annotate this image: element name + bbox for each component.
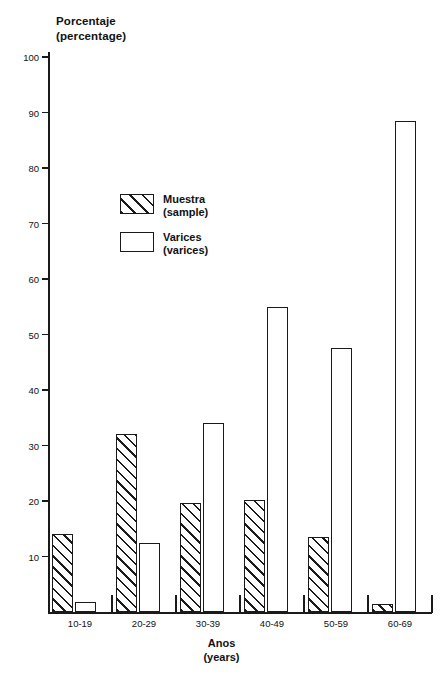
x-axis-tick	[431, 595, 433, 613]
y-axis-tick-label: 40	[13, 386, 39, 396]
y-axis-tick	[42, 278, 49, 279]
y-axis-tick-label: 90	[13, 108, 39, 118]
x-axis-tick-label: 60-69	[370, 618, 430, 629]
bar-varices-50-59	[331, 348, 352, 612]
bar-muestra-50-59	[308, 537, 329, 612]
legend-item-varices: Varices (varices)	[120, 231, 208, 257]
y-axis-tick	[42, 500, 49, 501]
bar-muestra-10-19	[52, 534, 73, 612]
y-axis-tick-label: 10	[13, 552, 39, 562]
legend-label-muestra: Muestra (sample)	[163, 193, 208, 219]
x-axis-tick-label: 30-39	[178, 618, 238, 629]
x-axis-tick	[239, 595, 241, 613]
x-axis-tick-label: 10-19	[50, 618, 110, 629]
y-axis-tick-label: 100	[13, 53, 39, 63]
x-axis-tick	[175, 595, 177, 613]
legend-swatch-varices-icon	[120, 232, 154, 252]
x-axis-tick	[367, 595, 369, 613]
y-axis-tick-label: 70	[13, 219, 39, 229]
bar-varices-40-49	[267, 307, 288, 612]
legend-swatch-muestra-icon	[120, 194, 154, 214]
y-axis-tick-label: 20	[13, 497, 39, 507]
legend-label-varices-primary: Varices	[163, 231, 208, 244]
y-axis-tick-label: 50	[13, 330, 39, 340]
x-axis-tick-label: 20-29	[114, 618, 174, 629]
y-axis-tick	[42, 112, 49, 113]
legend: Muestra (sample) Varices (varices)	[120, 193, 208, 269]
y-axis-tick-label: 80	[13, 164, 39, 174]
y-axis-tick	[42, 167, 49, 168]
legend-label-varices: Varices (varices)	[163, 231, 208, 257]
y-axis-tick	[42, 334, 49, 335]
bar-muestra-60-69	[372, 604, 393, 612]
legend-label-muestra-translation: (sample)	[163, 206, 208, 219]
x-axis-tick	[303, 595, 305, 613]
y-axis-tick-label: 30	[13, 441, 39, 451]
bar-muestra-30-39	[180, 503, 201, 612]
bar-muestra-20-29	[116, 434, 137, 612]
bar-varices-60-69	[395, 121, 416, 612]
y-axis-title-primary: Porcentaje	[56, 15, 116, 27]
y-axis-tick	[42, 556, 49, 557]
bar-varices-20-29	[139, 543, 160, 612]
y-axis-title-translation: (percentage)	[56, 29, 126, 44]
y-axis-tick-label: 60	[13, 275, 39, 285]
y-axis-tick	[42, 389, 49, 390]
bar-chart-figure: Porcentaje (percentage) 1020304050607080…	[0, 0, 443, 685]
bar-varices-10-19	[75, 602, 96, 612]
bar-varices-30-39	[203, 423, 224, 612]
legend-label-varices-translation: (varices)	[163, 244, 208, 257]
y-axis-tick	[42, 56, 49, 57]
x-axis-title-translation: (years)	[0, 650, 443, 664]
legend-label-muestra-primary: Muestra	[163, 193, 208, 206]
y-axis-tick	[42, 445, 49, 446]
x-axis-title: Anos (years)	[0, 636, 443, 664]
legend-item-muestra: Muestra (sample)	[120, 193, 208, 219]
y-axis-title: Porcentaje (percentage)	[56, 14, 126, 44]
x-axis-tick-label: 50-59	[306, 618, 366, 629]
x-axis-title-primary: Anos	[208, 637, 236, 649]
x-axis-tick-label: 40-49	[242, 618, 302, 629]
x-axis-tick	[111, 595, 113, 613]
y-axis-tick	[42, 223, 49, 224]
bar-muestra-40-49	[244, 500, 265, 612]
